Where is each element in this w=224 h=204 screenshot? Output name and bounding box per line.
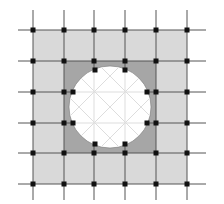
circle-node	[145, 90, 150, 95]
grid-node	[185, 59, 190, 64]
grid-node	[62, 182, 67, 187]
circle-node	[71, 90, 76, 95]
grid-node	[31, 121, 36, 126]
grid-node	[31, 90, 36, 95]
grid-node	[185, 90, 190, 95]
circle-node	[93, 142, 98, 147]
grid-circle-diagram	[0, 0, 224, 204]
grid-node	[92, 59, 97, 64]
circle-node	[123, 68, 128, 73]
grid-node	[31, 151, 36, 156]
grid-node	[62, 28, 67, 33]
grid-node	[62, 59, 67, 64]
grid-node	[31, 28, 36, 33]
grid-node	[123, 28, 128, 33]
grid-node	[123, 59, 128, 64]
grid-node	[154, 121, 159, 126]
grid-node	[92, 182, 97, 187]
grid-node	[185, 151, 190, 156]
circle-node	[145, 121, 150, 126]
grid-node	[154, 151, 159, 156]
grid-node	[123, 151, 128, 156]
grid-node	[185, 28, 190, 33]
circle-node	[93, 68, 98, 73]
grid-node	[62, 90, 67, 95]
circle-node	[71, 121, 76, 126]
grid-node	[123, 182, 128, 187]
grid-node	[62, 151, 67, 156]
grid-node	[154, 28, 159, 33]
grid-node	[154, 90, 159, 95]
grid-node	[31, 182, 36, 187]
grid-node	[154, 182, 159, 187]
grid-node	[62, 121, 67, 126]
grid-node	[185, 182, 190, 187]
grid-node	[185, 121, 190, 126]
grid-node	[92, 151, 97, 156]
circle-node	[123, 142, 128, 147]
grid-node	[31, 59, 36, 64]
grid-node	[92, 28, 97, 33]
grid-node	[154, 59, 159, 64]
